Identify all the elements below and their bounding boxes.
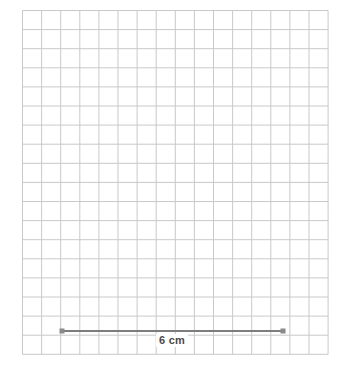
right-endpoint-marker[interactable] bbox=[281, 329, 286, 334]
worksheet-canvas: 6 cm bbox=[0, 0, 340, 371]
length-label: 6 cm bbox=[156, 334, 188, 347]
figure-layer bbox=[0, 0, 340, 371]
left-endpoint-marker[interactable] bbox=[60, 329, 65, 334]
